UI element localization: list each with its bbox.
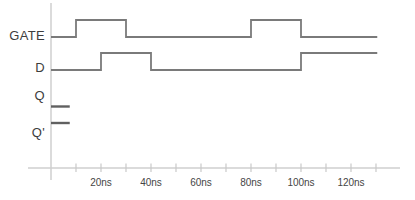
axis-tick-label: 80ns bbox=[240, 177, 262, 188]
axis-tick-label: 120ns bbox=[337, 177, 364, 188]
timing-diagram-figure: GATE D Q Q' 20ns40ns60ns80ns100ns120ns bbox=[0, 0, 415, 200]
waveform-gate bbox=[51, 20, 377, 37]
axis-tick-label: 20ns bbox=[90, 177, 112, 188]
axis-tick-label: 100ns bbox=[287, 177, 314, 188]
axis-tick-label: 40ns bbox=[140, 177, 162, 188]
waveform-canvas: 20ns40ns60ns80ns100ns120ns bbox=[0, 0, 415, 200]
axis-tick-label: 60ns bbox=[190, 177, 212, 188]
waveform-d bbox=[51, 53, 377, 70]
